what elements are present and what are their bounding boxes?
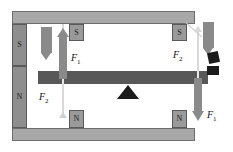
pole-box-bottom-left-label: N <box>74 115 80 123</box>
pole-box-bottom-left: N <box>69 110 84 128</box>
pole-box-top-right-label: S <box>177 29 181 37</box>
bottom-frame-bar <box>12 128 195 141</box>
force-label-f2-left: F2 <box>39 92 49 105</box>
force-label-f1-right-sub: 1 <box>213 115 217 123</box>
f2-left-arrow-head <box>59 112 67 118</box>
down-block-arrow-left-head <box>41 53 51 60</box>
pole-box-top-left-label: S <box>74 29 78 37</box>
force-label-f1-left: F1 <box>71 53 81 66</box>
fulcrum-triangle <box>117 85 139 99</box>
black-block-upper <box>207 51 220 64</box>
top-frame-bar <box>12 11 195 24</box>
force-label-f1-left-sub: 1 <box>77 58 81 66</box>
f2-right-arrow-head <box>194 26 202 32</box>
force-label-f2-right-sub: 2 <box>179 55 183 63</box>
down-block-arrow-right <box>203 22 214 48</box>
down-block-arrow-left <box>41 27 52 53</box>
pole-box-bottom-right: N <box>172 110 187 128</box>
black-block-lower <box>207 66 219 75</box>
diagram-canvas: S N S S N N F1 F2 <box>0 0 233 152</box>
force-label-f2-left-sub: 2 <box>45 97 49 105</box>
pole-box-top-right: S <box>172 24 187 41</box>
force-label-f2-right: F2 <box>173 50 183 63</box>
left-magnet-north-label: N <box>17 93 23 101</box>
left-magnet-south: S <box>12 24 27 66</box>
f1-left-arrow-head <box>57 28 69 37</box>
left-magnet-south-label: S <box>17 41 21 49</box>
f1-left-arrow-shaft <box>59 36 67 79</box>
left-magnet-north: N <box>12 66 27 128</box>
pole-box-bottom-right-label: N <box>177 115 183 123</box>
force-label-f1-right: F1 <box>207 110 217 123</box>
pole-box-top-left: S <box>69 24 84 41</box>
f1-right-arrow-shaft <box>194 78 202 111</box>
f1-right-arrow-head <box>192 111 204 121</box>
